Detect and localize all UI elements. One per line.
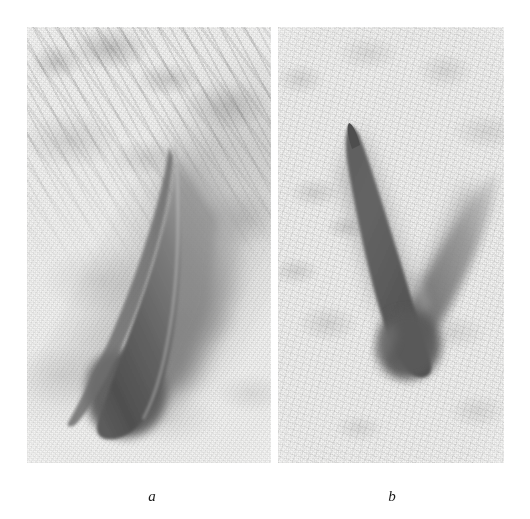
panel-b-caption: b — [372, 488, 412, 505]
figure-panel-a — [27, 27, 271, 463]
panel-b-vignette — [278, 27, 504, 463]
figure-panel-b — [278, 27, 504, 463]
panel-a-caption: a — [132, 488, 172, 505]
panel-row — [0, 0, 530, 470]
figure-plate: a b — [0, 0, 530, 519]
panel-a-vignette — [27, 27, 271, 463]
